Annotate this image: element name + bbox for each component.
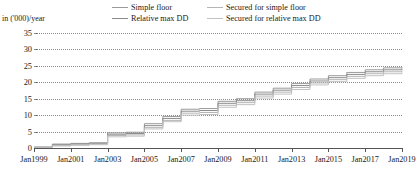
legend-label-secured-relative-max-dd: Secured for relative max DD [226,13,321,24]
y-axis-tick-label: 20 [6,78,32,87]
y-axis-tick-label: 25 [6,61,32,70]
x-axis-tick-mark [292,148,293,152]
x-axis-tick-label: Jan2013 [278,155,305,164]
legend-swatch-secured-relative-max-dd [207,18,223,19]
x-axis-tick-label: Jan1999 [20,155,47,164]
legend-item-simple-floor: Simple floor [112,2,207,13]
x-axis-tick-label: Jan2001 [57,155,84,164]
x-axis-tick-mark [255,148,256,152]
legend-item-secured-simple-floor: Secured for simple floor [207,2,402,13]
x-axis-tick-label: Jan2019 [388,155,415,164]
plot-area [34,33,402,148]
x-axis-tick-label: Jan2003 [94,155,121,164]
x-axis-tick-mark [218,148,219,152]
x-axis-tick-label: Jan2017 [352,155,379,164]
y-axis-tick-label: 35 [6,29,32,38]
x-axis-tick-label: Jan2011 [241,155,268,164]
legend-label-secured-simple-floor: Secured for simple floor [226,2,306,13]
y-axis-tick-label: 5 [6,127,32,136]
x-axis-tick-mark [365,148,366,152]
legend-item-secured-relative-max-dd: Secured for relative max DD [207,13,402,24]
legend-swatch-simple-floor [112,7,128,8]
y-axis-tick-label: 0 [6,144,32,153]
x-axis-tick-mark [71,148,72,152]
x-axis-tick-label: Jan2015 [315,155,342,164]
legend-item-relative-max-dd: Relative max DD [112,13,207,24]
x-axis-tick-mark [34,148,35,152]
x-axis-tick-mark [108,148,109,152]
series-line [34,72,402,148]
y-axis-tick-label: 10 [6,111,32,120]
x-axis-tick-mark [144,148,145,152]
legend-swatch-relative-max-dd [112,18,128,19]
y-axis-tick-label: 30 [6,45,32,54]
y-axis-tick-label: 15 [6,94,32,103]
x-axis-tick-label: Jan2009 [204,155,231,164]
legend-label-simple-floor: Simple floor [131,2,172,13]
legend-swatch-secured-simple-floor [207,7,223,8]
x-axis-tick-mark [402,148,403,152]
x-axis-tick-mark [328,148,329,152]
chart-legend: Simple floor Secured for simple floor Re… [112,2,402,24]
x-axis-tick-label: Jan2007 [168,155,195,164]
x-axis-tick-label: Jan2005 [131,155,158,164]
series-lines [34,33,402,148]
y-axis-ticks: 05101520253035 [4,0,32,176]
x-axis-tick-mark [181,148,182,152]
legend-label-relative-max-dd: Relative max DD [131,13,188,24]
